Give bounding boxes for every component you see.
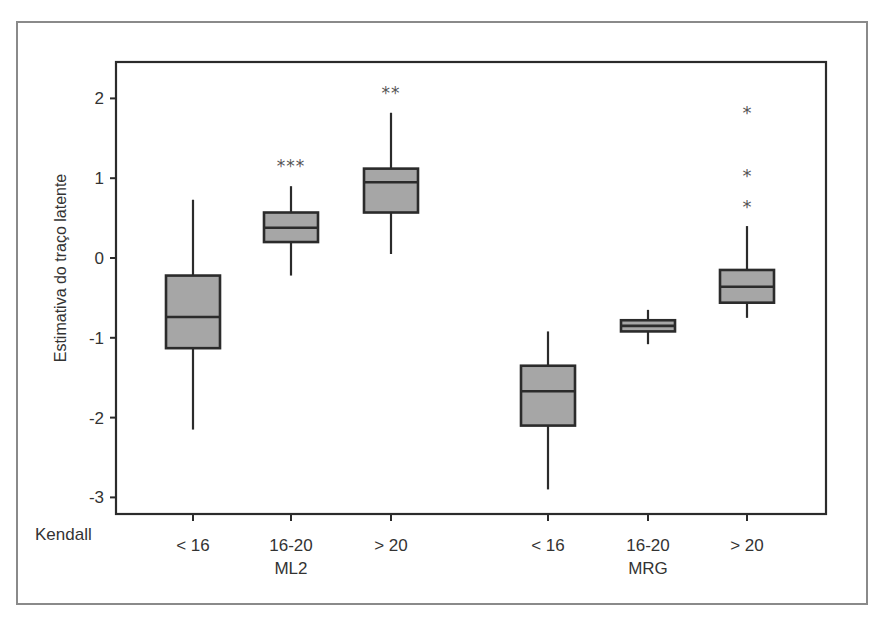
outlier-marker: * bbox=[743, 196, 752, 217]
x-axis: < 1616-20ML2> 20< 1616-20MRG> 20 bbox=[176, 514, 764, 578]
boxes: ******** bbox=[166, 83, 774, 490]
boxplot-chart: 210-1-2-3 < 1616-20ML2> 20< 1616-20MRG> … bbox=[0, 0, 876, 623]
y-axis: 210-1-2-3 bbox=[89, 89, 116, 507]
x-tick-label: < 16 bbox=[176, 536, 210, 555]
significance-annotation: ** bbox=[382, 83, 401, 103]
significance-annotation: *** bbox=[277, 156, 306, 176]
outlier-marker: * bbox=[743, 102, 752, 123]
y-tick-label: 0 bbox=[95, 249, 104, 268]
x-tick-label: > 20 bbox=[374, 536, 408, 555]
x-group-label: ML2 bbox=[274, 559, 307, 578]
iqr-box bbox=[364, 169, 418, 213]
iqr-box bbox=[521, 366, 575, 426]
x-tick-label: 16-20 bbox=[269, 536, 312, 555]
y-tick-label: 2 bbox=[95, 89, 104, 108]
x-row-label-kendall: Kendall bbox=[35, 525, 92, 544]
x-tick-label: 16-20 bbox=[626, 536, 669, 555]
x-tick-label: < 16 bbox=[531, 536, 565, 555]
y-tick-label: -3 bbox=[89, 488, 104, 507]
box-mrg-0 bbox=[521, 331, 575, 489]
box-mrg-1 bbox=[621, 310, 675, 344]
y-tick-label: 1 bbox=[95, 169, 104, 188]
x-group-label: MRG bbox=[628, 559, 668, 578]
box-ml2-2: ** bbox=[364, 83, 418, 254]
iqr-box bbox=[166, 276, 220, 349]
y-axis-title: Estimativa do traço latente bbox=[52, 174, 69, 363]
outlier-marker: * bbox=[743, 165, 752, 186]
box-ml2-0 bbox=[166, 200, 220, 430]
y-tick-label: -2 bbox=[89, 409, 104, 428]
box-mrg-2: *** bbox=[720, 102, 774, 317]
y-tick-label: -1 bbox=[89, 329, 104, 348]
x-tick-label: > 20 bbox=[730, 536, 764, 555]
box-ml2-1: *** bbox=[264, 156, 318, 275]
